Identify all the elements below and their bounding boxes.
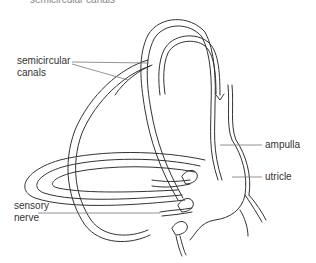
nerve-fibre-2 — [160, 208, 192, 216]
label-utricle: utricle — [265, 171, 292, 183]
leader-semicircular-1 — [72, 62, 149, 63]
leader-semicircular-2 — [72, 64, 128, 80]
utricle-outline — [190, 85, 246, 240]
label-semicircular-line2: canals — [17, 67, 70, 79]
label-semicircular-line1: semicircular — [17, 55, 70, 67]
utricle-lower — [240, 195, 266, 236]
posterior-canal-outer — [68, 60, 150, 242]
label-sensory-nerve: sensory nerve — [14, 200, 49, 224]
nerve-fibre-3 — [176, 236, 186, 256]
anterior-canal-inner — [147, 26, 218, 198]
label-sensory-line2: nerve — [14, 212, 49, 224]
lateral-canal-inner — [37, 159, 200, 199]
ampulla-3 — [172, 221, 187, 235]
anterior-canal-innerloop-2 — [164, 41, 216, 94]
posterior-canal-outer-2 — [115, 65, 152, 95]
lateral-canal-outer — [25, 153, 205, 206]
anterior-canal-outer — [141, 20, 222, 200]
posterior-canal-inner — [76, 66, 150, 235]
label-sensory-line1: sensory — [14, 200, 49, 212]
label-semicircular-canals: semicircular canals — [17, 55, 70, 79]
nerve-fibre-1 — [152, 180, 190, 187]
utricle-outline-inner — [232, 85, 250, 195]
label-ampulla: ampulla — [265, 139, 300, 151]
